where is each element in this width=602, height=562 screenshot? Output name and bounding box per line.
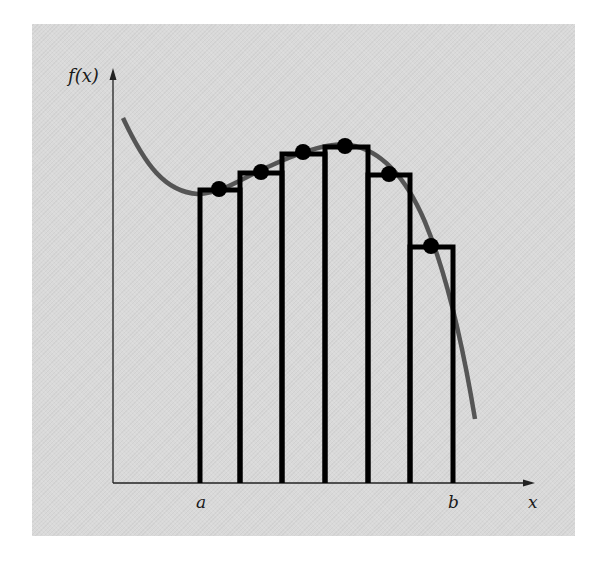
x-axis-arrow-icon [523,480,535,487]
midpoint-dot-3 [295,144,311,160]
midpoint-dot-5 [381,166,397,182]
rectangle-2 [240,173,282,483]
rectangle-3 [282,154,325,483]
midpoint-dot-4 [337,138,353,154]
rectangle-1 [200,190,240,483]
y-axis [110,68,117,483]
rectangle-5 [368,175,410,483]
midpoint-dot-6 [423,238,439,254]
interval-start-label: a [196,492,206,512]
interval-end-label: b [448,492,459,512]
midpoint-dot-2 [253,164,269,180]
midpoint-dot-1 [211,181,227,197]
rectangle-4 [325,147,368,483]
x-axis-label: x [528,492,538,512]
function-curve [123,118,475,419]
y-axis-arrow-icon [110,68,117,80]
midpoint-rule-diagram: f(x) a b x [0,0,602,562]
y-axis-label: f(x) [66,65,99,86]
